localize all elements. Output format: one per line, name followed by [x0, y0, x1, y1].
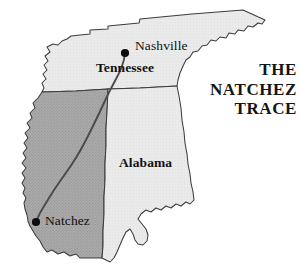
map-title-line-2: NATCHEZ	[210, 80, 297, 100]
map-title: THE NATCHEZ TRACE	[210, 60, 297, 119]
state-label-tennessee: Tennessee	[96, 61, 154, 75]
city-dot-nashville	[121, 49, 129, 57]
city-dot-natchez	[32, 218, 40, 226]
state-shape-alabama	[102, 86, 194, 262]
map-title-line-1: THE	[210, 60, 297, 80]
city-label-natchez: Natchez	[45, 214, 90, 228]
city-label-nashville: Nashville	[135, 39, 188, 53]
state-label-alabama: Alabama	[119, 156, 172, 170]
map-title-line-3: TRACE	[210, 99, 297, 119]
natchez-trace-map: Nashville Natchez Tennessee Alabama THE …	[0, 0, 300, 273]
